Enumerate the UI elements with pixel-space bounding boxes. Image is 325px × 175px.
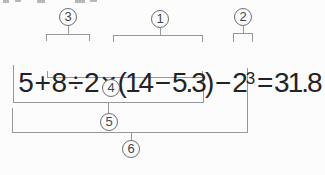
order-badge-2: 2 [234, 8, 252, 26]
bracket-step-3-division [46, 34, 90, 41]
badge-2-stem [243, 26, 244, 33]
badge-3-stem [68, 26, 69, 34]
order-badge-5: 5 [100, 113, 118, 131]
expression-text: 5 + 8 ÷ 2 × (14 − 5.3) − 23 = 31.8 [7, 41, 321, 129]
order-badge-6: 6 [122, 140, 140, 158]
order-badge-1: 1 [151, 10, 169, 28]
order-badge-4: 4 [102, 79, 120, 97]
cropped-text-remnant [75, 0, 85, 3]
expression-main-segment: 5 + 8 ÷ 2 × (14 − 5.3) − 2 [18, 67, 246, 98]
badge-1-stem [160, 28, 161, 35]
expression-result-segment: = 31.8 [254, 67, 320, 98]
cropped-text-remnant [37, 0, 45, 3]
order-badge-3: 3 [59, 8, 77, 26]
order-of-operations-figure: 3 1 2 5 + 8 ÷ 2 × (14 − 5.3) − 23 = 31.8… [0, 0, 325, 175]
cropped-text-remnant [3, 0, 9, 3]
exponent-superscript: 3 [246, 69, 254, 88]
cropped-text-remnant [15, 0, 21, 2]
cropped-text-remnant [90, 0, 97, 2]
